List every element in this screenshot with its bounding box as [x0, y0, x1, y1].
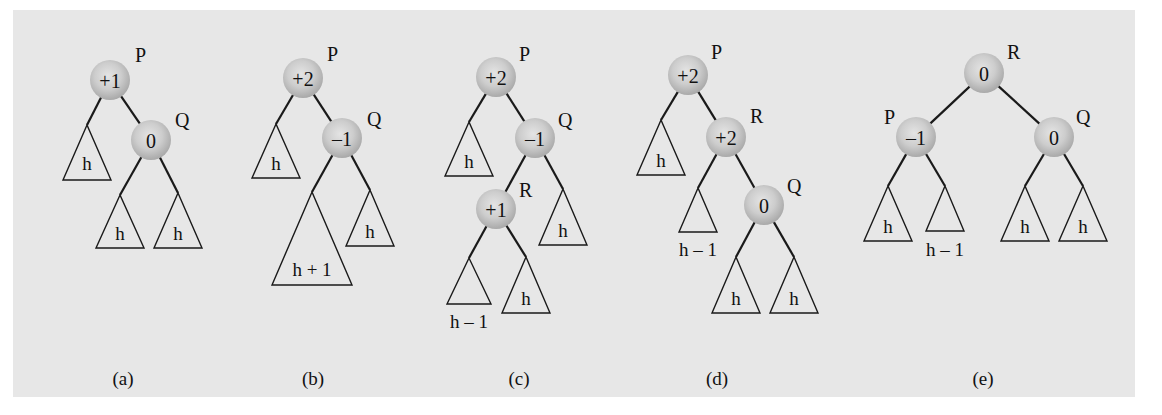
subtree-edge: [698, 153, 717, 188]
triangle-shape: [679, 188, 717, 232]
subtree-triangle: h – 1: [679, 188, 717, 260]
subtree-triangle: h – 1: [447, 258, 491, 332]
subtree-height-label: h: [789, 288, 799, 309]
subtree-edge: [661, 90, 679, 120]
triangle-shape: [447, 258, 491, 304]
node-name-label: P: [135, 44, 146, 66]
tree-node-p: +1: [90, 60, 130, 100]
subtree-edge: [544, 154, 563, 189]
subtree-height-label: h: [558, 220, 568, 241]
tree-edge: [997, 85, 1040, 125]
balance-factor: –1: [331, 128, 352, 150]
tree-node-r: +1: [476, 189, 516, 229]
subtree-edge: [120, 156, 142, 195]
subfigure-caption: (b): [302, 368, 324, 390]
subtree-height-label: h: [1078, 216, 1088, 237]
nodes-layer: +10+2–1+2–1+1+2+200–10: [90, 53, 1074, 229]
node-name-label: Q: [367, 108, 382, 130]
subtree-edge: [736, 221, 755, 257]
tree-node-q: –1: [322, 118, 362, 158]
subtree-height-label: h: [731, 288, 741, 309]
subtree-edge: [469, 225, 487, 258]
subtree-edge: [276, 94, 294, 124]
balance-factor: 0: [979, 63, 989, 85]
subtree-triangle: h: [502, 257, 550, 313]
subtree-triangle: h: [346, 190, 394, 246]
node-name-label: P: [327, 43, 338, 65]
subtree-height-label: h: [883, 216, 893, 237]
subtree-edge: [87, 96, 102, 125]
tree-node-r: 0: [964, 53, 1004, 93]
subtree-edge: [925, 152, 945, 186]
balance-factor: +1: [485, 199, 506, 221]
subtree-edge: [312, 154, 333, 192]
tree-edge: [697, 90, 716, 121]
subtree-triangle: h: [864, 186, 912, 241]
subtree-height-label: h: [365, 221, 375, 242]
subtree-triangle: h: [712, 257, 760, 313]
balance-factor: 0: [146, 130, 156, 152]
edges-layer: [87, 85, 1083, 258]
subtree-triangle: h: [96, 195, 144, 248]
tree-node-p: +2: [283, 58, 323, 98]
tree-node-q: 0: [744, 185, 784, 225]
subtree-triangle: h: [770, 257, 818, 313]
subtree-edge: [469, 92, 487, 122]
subtree-height-label: h: [82, 153, 92, 174]
node-name-label: Q: [1076, 106, 1091, 128]
subtree-triangle: h: [1001, 186, 1049, 241]
subtree-triangle: h: [1059, 186, 1107, 241]
subtree-height-label: h: [656, 150, 666, 171]
subtree-triangle: h – 1: [926, 186, 964, 260]
subtree-edge: [1063, 152, 1083, 186]
subfigure-caption: (e): [972, 368, 993, 390]
node-name-label: Q: [175, 109, 190, 131]
captions-layer: (a)(b)(c)(d)(e): [112, 368, 993, 390]
balance-factor: +2: [292, 68, 313, 90]
subtree-triangle: h: [445, 122, 493, 176]
tree-node-r: +2: [706, 117, 746, 157]
subtree-triangle: h: [63, 125, 111, 180]
subtrees-layer: hhhhh + 1hhhh – 1hhh – 1hhhh – 1hh: [63, 120, 1107, 332]
node-name-label: Q: [787, 175, 802, 197]
node-name-label: P: [884, 106, 895, 128]
subtree-height-label: h: [173, 223, 183, 244]
node-name-label: R: [750, 105, 764, 127]
balance-factor: 0: [759, 195, 769, 217]
node-name-label: P: [519, 43, 530, 65]
subfigure-caption: (c): [508, 368, 529, 390]
subtree-edge: [159, 156, 178, 193]
subtree-height-label: h: [464, 151, 474, 172]
subtree-edge: [888, 153, 907, 186]
tree-node-p: +2: [668, 55, 708, 95]
node-name-label: Q: [558, 109, 573, 131]
subtree-height-label: h: [115, 223, 125, 244]
node-name-label: P: [711, 41, 722, 63]
subtree-triangle: h: [252, 124, 300, 178]
subfigure-caption: (d): [706, 368, 728, 390]
tree-edge: [929, 85, 971, 124]
avl-rotation-diagram: hhhhh + 1hhhh – 1hhh – 1hhhh – 1hh +10+2…: [0, 0, 1162, 415]
subtree-edge: [506, 224, 526, 257]
tree-edge: [506, 92, 526, 123]
balance-factor: 0: [1049, 127, 1059, 149]
subtree-triangle: h + 1: [272, 192, 352, 285]
tree-edge: [313, 93, 332, 123]
tree-edge: [735, 153, 755, 190]
tree-node-q: –1: [515, 118, 555, 158]
balance-factor: +1: [99, 70, 120, 92]
tree-node-q: 0: [131, 120, 171, 160]
subtree-edge: [351, 154, 370, 190]
subtree-height-label: h – 1: [450, 311, 488, 332]
tree-edge: [120, 95, 141, 125]
subtree-triangle: h: [539, 189, 587, 245]
subtree-height-label: h – 1: [679, 239, 717, 260]
tree-node-p: –1: [896, 117, 936, 157]
balance-factor: +2: [715, 127, 736, 149]
tree-node-p: +2: [476, 57, 516, 97]
subtree-height-label: h: [521, 288, 531, 309]
balance-factor: –1: [524, 128, 545, 150]
subtree-height-label: h – 1: [926, 239, 964, 260]
subtree-edge: [1025, 152, 1045, 186]
subtree-height-label: h: [271, 153, 281, 174]
